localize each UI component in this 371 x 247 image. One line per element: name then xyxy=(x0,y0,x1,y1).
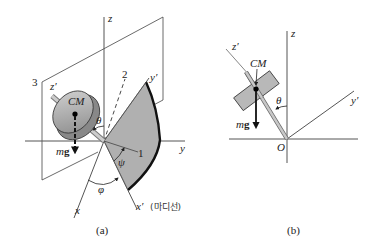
nodal-line-label: (마디선) xyxy=(150,202,181,212)
cm-point xyxy=(72,111,77,116)
x-prime-label: x′ xyxy=(135,200,144,212)
figure-a: z y x y′ x′ z′ 1 2 3 CM mg θ ψ φ (마디선) (… xyxy=(25,12,185,237)
z-label: z xyxy=(107,12,113,24)
caption-a: (a) xyxy=(96,224,109,237)
caption-b: (b) xyxy=(287,224,300,237)
b-theta-label: θ xyxy=(276,94,282,106)
gyroscope-diagram: z y x y′ x′ z′ 1 2 3 CM mg θ ψ φ (마디선) (… xyxy=(0,0,371,247)
z-prime-label: z′ xyxy=(49,80,57,92)
y-prime-label: y′ xyxy=(149,71,158,83)
line-2-label: 2 xyxy=(122,68,128,80)
b-y-prime-axis xyxy=(287,91,354,139)
b-z-prime-label: z′ xyxy=(231,40,239,52)
figure-b: z z′ y′ CM mg θ O (b) xyxy=(226,27,359,237)
line-1-label: 1 xyxy=(138,147,144,159)
b-y-prime-label: y′ xyxy=(350,94,359,106)
b-cm-label: CM xyxy=(250,57,267,69)
phi-label: φ xyxy=(98,183,104,195)
theta-label: θ xyxy=(96,114,102,126)
y-label: y xyxy=(179,142,185,154)
psi-label: ψ xyxy=(118,156,125,168)
b-theta-arc xyxy=(276,106,287,109)
b-weight-label: mg xyxy=(236,118,250,130)
b-z-label: z xyxy=(290,27,296,39)
cm-label: CM xyxy=(68,95,85,107)
line-3-label: 3 xyxy=(32,76,38,88)
b-origin-label: O xyxy=(277,141,285,153)
b-cm-point xyxy=(253,86,258,91)
weight-label: mg xyxy=(56,145,70,157)
x-label: x xyxy=(74,204,80,216)
